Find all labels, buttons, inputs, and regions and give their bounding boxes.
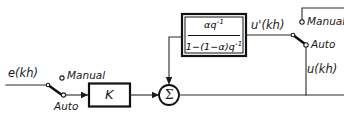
input-switch-manual-label: Manual <box>67 70 105 81</box>
denominator-exponent: -1 <box>235 40 242 48</box>
plant-output-signal-label: u(kh) <box>307 64 337 76</box>
transfer-function-expression: αq-1 1−(1−α)q-1 <box>183 16 245 54</box>
input-switch-pivot <box>46 83 50 87</box>
output-switch-manual-contact[interactable] <box>300 20 304 24</box>
input-switch-auto-label: Auto <box>54 101 78 112</box>
summing-junction-label: Σ <box>165 89 173 101</box>
sum-input-arrowhead <box>152 92 159 98</box>
output-switch-auto-contact[interactable] <box>304 43 308 47</box>
block-diagram: e(kh) Manual Auto K Σ αq-1 1−(1−α)q-1 u'… <box>0 0 344 116</box>
transfer-function-denominator: 1−(1−α)q-1 <box>183 40 245 52</box>
output-switch-pivot <box>291 33 295 37</box>
gain-block-label: K <box>105 88 114 101</box>
feedback-arrowhead <box>166 77 172 85</box>
output-switch-manual-label: Manual <box>307 16 344 27</box>
input-signal-label: e(kh) <box>8 68 38 80</box>
input-switch-manual-contact[interactable] <box>60 76 64 80</box>
output-switch-auto-label: Auto <box>311 39 335 50</box>
filter-output-signal-label: u'(kh) <box>251 20 284 32</box>
feedback-wire <box>169 37 182 79</box>
transfer-function-numerator: αq-1 <box>183 18 245 30</box>
gain-input-arrowhead <box>81 92 88 98</box>
numerator-exponent: -1 <box>217 18 224 26</box>
input-switch-blade[interactable] <box>48 85 62 95</box>
